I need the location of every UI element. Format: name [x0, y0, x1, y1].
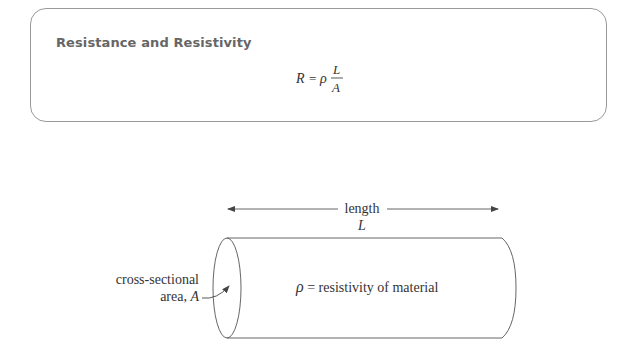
area-label-line1: cross-sectional	[116, 272, 199, 287]
formula-rho: ρ	[319, 71, 327, 86]
resistor-diagram: R = ρ L A length L cross-sectional area,…	[0, 0, 620, 349]
formula-denominator: A	[331, 80, 340, 95]
length-label: length	[345, 201, 380, 216]
resistivity-label: ρ = resistivity of material	[295, 278, 438, 296]
length-dimension: length L	[228, 201, 498, 233]
resistivity-symbol: ρ	[295, 278, 304, 296]
formula-lhs: R	[295, 71, 305, 86]
area-pointer-arrow	[202, 286, 229, 298]
formula-equals: =	[309, 71, 316, 86]
resistivity-text: = resistivity of material	[304, 280, 439, 295]
area-symbol: A	[189, 289, 199, 304]
length-symbol: L	[357, 218, 366, 233]
formula: R = ρ L A	[295, 62, 343, 95]
cylinder-right-cap	[502, 238, 516, 338]
area-label-text: area,	[160, 289, 190, 304]
area-annotation: cross-sectional area, A	[116, 272, 229, 304]
formula-numerator: L	[332, 62, 340, 77]
area-label-line2: area, A	[160, 289, 199, 304]
